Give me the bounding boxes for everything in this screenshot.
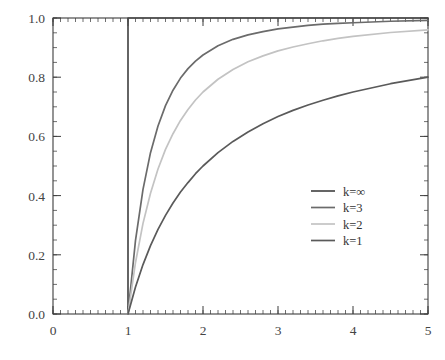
y-tick-label: 0.8	[28, 70, 45, 85]
x-tick-label: 1	[125, 323, 132, 338]
line-chart: 012345 0.00.20.40.60.81.0 k=∞k=3k=2k=1	[0, 0, 445, 360]
y-tick-label: 0.6	[28, 129, 45, 144]
x-tick-label: 5	[425, 323, 432, 338]
y-tick-label: 1.0	[28, 11, 45, 26]
legend-label: k=2	[343, 218, 363, 232]
x-tick-label: 2	[200, 323, 207, 338]
x-tick-label: 3	[275, 323, 282, 338]
y-tick-label: 0.0	[28, 307, 45, 322]
chart-container: 012345 0.00.20.40.60.81.0 k=∞k=3k=2k=1	[0, 0, 445, 360]
chart-background	[0, 0, 445, 360]
x-tick-label: 0	[50, 323, 57, 338]
y-tick-label: 0.4	[28, 189, 45, 204]
y-tick-label: 0.2	[28, 248, 45, 263]
legend-label: k=3	[343, 201, 363, 215]
x-tick-label: 4	[350, 323, 357, 338]
legend-label: k=∞	[343, 185, 365, 199]
legend-label: k=1	[343, 234, 363, 248]
